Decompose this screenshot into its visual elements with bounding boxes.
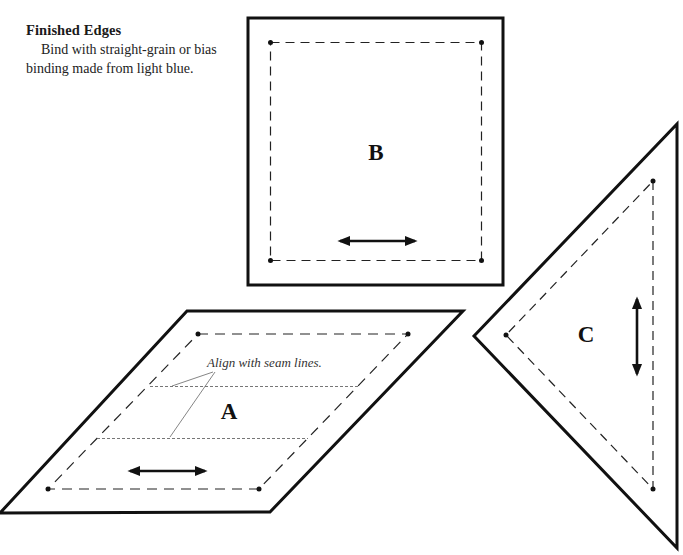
piece-b-label: B	[368, 140, 383, 165]
piece-b: B	[248, 18, 503, 285]
pattern-diagram: B Align with seam lines. A C	[0, 0, 683, 555]
piece-a: Align with seam lines. A	[0, 311, 463, 513]
seam-alignment-note: Align with seam lines.	[206, 355, 322, 370]
leader-line-lower	[170, 372, 215, 437]
piece-a-label: A	[221, 399, 238, 424]
piece-c-label: C	[578, 322, 595, 347]
